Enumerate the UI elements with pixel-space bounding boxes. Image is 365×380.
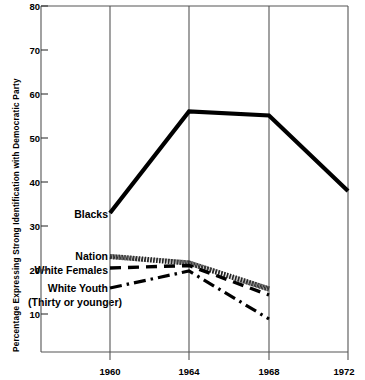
plot-area (0, 0, 365, 380)
chart-figure: Percentage Expressing Strong Identificat… (0, 0, 365, 380)
y-tick-marks (41, 6, 48, 314)
series-line-blacks (110, 112, 348, 214)
vertical-gridlines (110, 6, 348, 360)
axis-frame (41, 6, 348, 352)
